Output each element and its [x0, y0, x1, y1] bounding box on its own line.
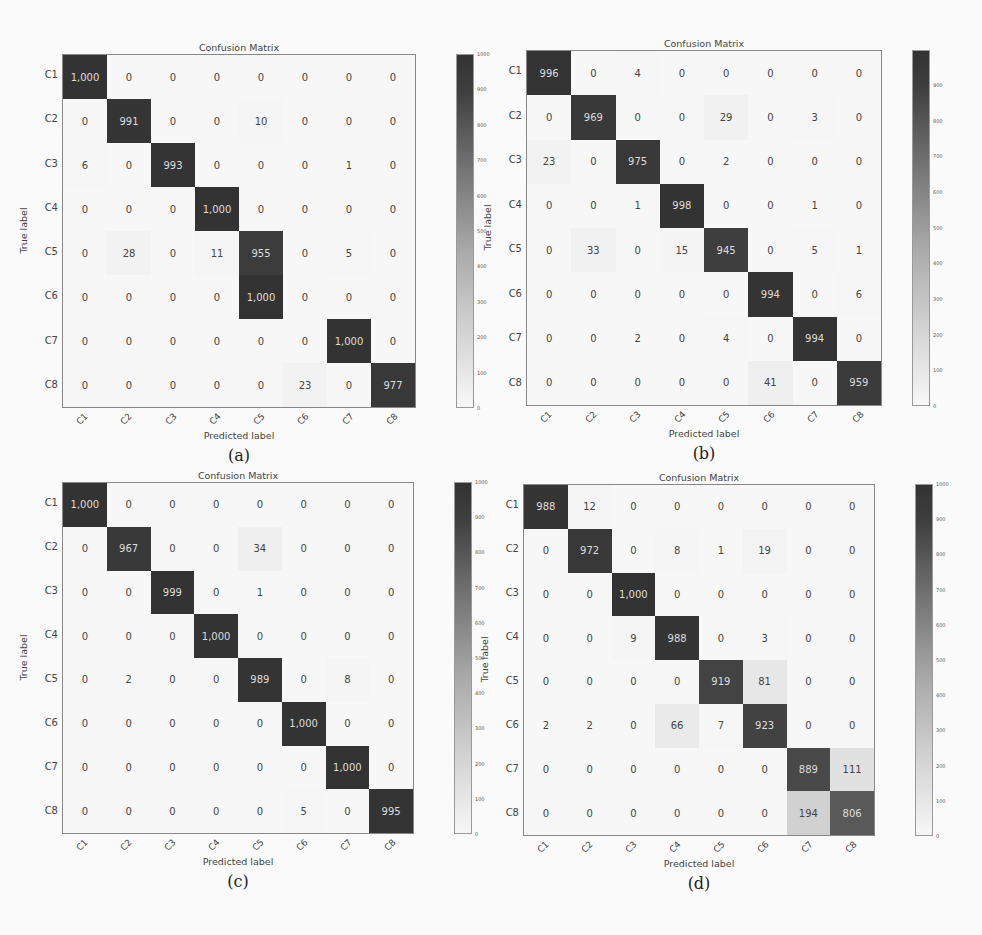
colorbar — [912, 50, 930, 406]
colorbar-tick: 600 — [475, 620, 485, 626]
colorbar-tick: 800 — [475, 549, 485, 555]
matrix-cell: 0 — [194, 571, 238, 615]
matrix-cell: 0 — [660, 361, 704, 405]
matrix-cell: 955 — [239, 231, 283, 275]
matrix-cell: 0 — [151, 527, 195, 571]
row-label: C7 — [502, 332, 522, 343]
matrix-cell: 0 — [527, 272, 571, 316]
column-label: C4 — [667, 839, 683, 855]
row-label: C3 — [502, 154, 522, 165]
matrix-cell: 0 — [195, 143, 239, 187]
chart-title: Confusion Matrix — [62, 42, 416, 53]
matrix-cell: 0 — [527, 184, 571, 228]
matrix-cell: 0 — [194, 658, 238, 702]
row-label: C6 — [38, 717, 58, 728]
matrix-cell: 0 — [527, 95, 571, 139]
matrix-cell: 0 — [830, 485, 874, 529]
matrix-cell: 66 — [655, 704, 699, 748]
column-label: C3 — [623, 839, 639, 855]
matrix-cell: 0 — [704, 272, 748, 316]
column-label: C4 — [207, 411, 223, 427]
chart-title: Confusion Matrix — [526, 38, 882, 49]
matrix-cell: 994 — [748, 272, 792, 316]
matrix-cell: 0 — [612, 791, 656, 835]
colorbar-tick: 1000 — [475, 479, 488, 485]
matrix-cell: 0 — [369, 527, 413, 571]
matrix-cell: 0 — [238, 483, 282, 527]
matrix-cell: 0 — [787, 529, 831, 573]
matrix-cell: 0 — [239, 55, 283, 99]
matrix-cell: 0 — [195, 363, 239, 407]
matrix-cell: 0 — [63, 527, 107, 571]
colorbar-tick: 400 — [933, 260, 943, 266]
y-axis-label: True label — [482, 204, 493, 250]
matrix-cell: 0 — [283, 143, 327, 187]
matrix-cell: 0 — [612, 485, 656, 529]
matrix-cell: 0 — [660, 95, 704, 139]
matrix-cell: 0 — [371, 187, 415, 231]
matrix-cell: 0 — [369, 483, 413, 527]
matrix-cell: 0 — [194, 483, 238, 527]
matrix-cell: 0 — [748, 95, 792, 139]
matrix-cell: 0 — [283, 319, 327, 363]
colorbar-tick: 600 — [477, 193, 487, 199]
matrix-cell: 5 — [282, 789, 326, 833]
column-label: C3 — [163, 411, 179, 427]
matrix-cell: 0 — [63, 658, 107, 702]
matrix-cell: 8 — [655, 529, 699, 573]
matrix-cell: 1,000 — [282, 702, 326, 746]
row-label: C4 — [502, 199, 522, 210]
matrix-cell: 0 — [748, 184, 792, 228]
colorbar-tick: 900 — [475, 514, 485, 520]
matrix-cell: 999 — [151, 571, 195, 615]
column-label: C8 — [850, 409, 866, 425]
matrix-cell: 0 — [151, 483, 195, 527]
matrix-cell: 0 — [63, 571, 107, 615]
matrix-cell: 988 — [524, 485, 568, 529]
matrix-cell: 41 — [748, 361, 792, 405]
column-label: C8 — [382, 837, 398, 853]
matrix-cell: 111 — [830, 748, 874, 792]
matrix-cell: 0 — [837, 95, 881, 139]
matrix-cell: 0 — [239, 187, 283, 231]
y-axis-label: True label — [479, 636, 490, 682]
matrix-cell: 0 — [371, 231, 415, 275]
matrix-cell: 6 — [63, 143, 107, 187]
matrix-cell: 0 — [837, 184, 881, 228]
matrix-cell: 0 — [371, 55, 415, 99]
matrix-cell: 0 — [704, 184, 748, 228]
matrix-cell: 0 — [194, 702, 238, 746]
matrix-cell: 0 — [371, 143, 415, 187]
matrix-cell: 1,000 — [63, 55, 107, 99]
matrix-cell: 0 — [616, 228, 660, 272]
matrix-cell: 0 — [699, 573, 743, 617]
matrix-cell: 3 — [743, 616, 787, 660]
matrix-cell: 1 — [793, 184, 837, 228]
matrix-cell: 0 — [326, 702, 370, 746]
colorbar-tick: 800 — [477, 122, 487, 128]
row-label: C5 — [38, 673, 58, 684]
matrix-cell: 0 — [571, 272, 615, 316]
matrix-cell: 2 — [568, 704, 612, 748]
column-label: C5 — [251, 411, 267, 427]
matrix-cell: 33 — [571, 228, 615, 272]
matrix-cell: 0 — [107, 143, 151, 187]
matrix-cell: 0 — [743, 748, 787, 792]
row-label: C7 — [499, 763, 519, 774]
row-label: C5 — [502, 243, 522, 254]
matrix-cell: 0 — [568, 791, 612, 835]
matrix-cell: 0 — [238, 702, 282, 746]
column-label: C6 — [296, 411, 312, 427]
matrix-cell: 0 — [107, 187, 151, 231]
column-label: C7 — [799, 839, 815, 855]
matrix-cell: 967 — [107, 527, 151, 571]
matrix-cell: 0 — [107, 789, 151, 833]
matrix-cell: 0 — [238, 614, 282, 658]
matrix-cell: 0 — [793, 51, 837, 95]
matrix-cell: 0 — [151, 99, 195, 143]
matrix-cell: 0 — [195, 99, 239, 143]
column-label: C1 — [74, 411, 90, 427]
matrix-cell: 0 — [699, 485, 743, 529]
colorbar-tick: 500 — [936, 657, 946, 663]
colorbar-tick: 900 — [477, 86, 487, 92]
